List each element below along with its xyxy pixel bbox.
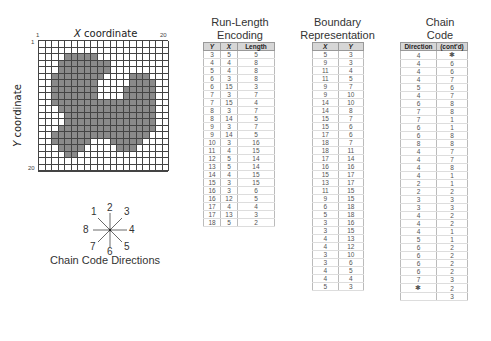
- table-cell: 7: [237, 123, 274, 131]
- table-cell: 4: [401, 76, 437, 84]
- table-cell: 11: [313, 187, 339, 195]
- table-row: 1636: [204, 187, 275, 195]
- table-row: 11415: [204, 147, 275, 155]
- table-cell: 9: [204, 131, 221, 139]
- table-cell: 11: [313, 67, 339, 75]
- table-row: 97: [313, 83, 364, 91]
- table-cell: 8: [401, 140, 437, 148]
- table-cell: 3: [220, 187, 237, 195]
- table-cell: 6: [338, 131, 364, 139]
- table-cell: 3: [220, 75, 237, 83]
- table-row: 73: [401, 276, 468, 284]
- table-cell: 8: [436, 132, 467, 140]
- table-cell: 14: [220, 115, 237, 123]
- table-cell: 12: [338, 243, 364, 251]
- col-length: Length: [237, 43, 274, 51]
- table-cell: 10: [338, 99, 364, 107]
- table-cell: 18: [204, 219, 221, 227]
- table-cell: 1: [436, 172, 467, 180]
- table-cell: 3: [237, 83, 274, 91]
- table-cell: 8: [338, 107, 364, 115]
- table-cell: 11: [313, 75, 339, 83]
- table-cell: 6: [401, 268, 437, 276]
- table-cell: 10: [338, 251, 364, 259]
- table-cell: 6: [204, 75, 221, 83]
- table-row: 115: [313, 75, 364, 83]
- table-cell: 3: [313, 227, 339, 235]
- table-cell: 3: [313, 259, 339, 267]
- col-y: Y: [338, 43, 364, 51]
- table-cell: 5: [237, 195, 274, 203]
- table-cell: 5: [237, 131, 274, 139]
- table-row: 47: [401, 156, 468, 164]
- table-cell: 8: [436, 108, 467, 116]
- table-cell: 7: [338, 115, 364, 123]
- table-cell: 10: [204, 139, 221, 147]
- table-cell: 6: [338, 123, 364, 131]
- table-cell: 3: [313, 251, 339, 259]
- table-row: 548: [204, 67, 275, 75]
- table-cell: 7: [237, 91, 274, 99]
- table-cell: 10: [338, 91, 364, 99]
- table-row: 618: [313, 203, 364, 211]
- table-cell: 14: [237, 155, 274, 163]
- direction-3: 3: [124, 206, 130, 217]
- y-axis-start: 1: [31, 39, 34, 45]
- table-cell: 11: [204, 147, 221, 155]
- table-cell: 15: [220, 83, 237, 91]
- table-cell: 15: [338, 227, 364, 235]
- table-cell: 3: [338, 283, 364, 291]
- chain-code-compass: 1 2 3 4 5 6 7 8: [80, 205, 140, 255]
- pixel-grid: [38, 40, 168, 170]
- table-row: 910: [313, 91, 364, 99]
- table-cell: 3: [220, 91, 237, 99]
- table-row: 15315: [204, 179, 275, 187]
- table-cell: 1: [436, 228, 467, 236]
- grid-cell: [163, 165, 170, 172]
- table-cell: 5: [401, 84, 437, 92]
- table-cell: 1: [436, 116, 467, 124]
- table-row: 10316: [204, 139, 275, 147]
- table-cell: 4: [401, 172, 437, 180]
- table-row: 355: [204, 51, 275, 59]
- table-row: 78: [401, 108, 468, 116]
- chain-code-table: Direction (cont'd) 4✱4646475647687871616…: [400, 42, 468, 301]
- table-cell: 4: [220, 67, 237, 75]
- table-cell: 3: [436, 196, 467, 204]
- table-cell: 5: [401, 236, 437, 244]
- table-row: 93: [313, 59, 364, 67]
- table-row: 17133: [204, 211, 275, 219]
- table-cell: 3: [401, 196, 437, 204]
- table-cell: 6: [436, 68, 467, 76]
- table-cell: 15: [237, 147, 274, 155]
- table-row: 837: [204, 107, 275, 115]
- table-cell: 6: [401, 100, 437, 108]
- table-cell: 15: [220, 99, 237, 107]
- table-row: 61: [401, 124, 468, 132]
- table-cell: 4: [401, 212, 437, 220]
- table-cell: 6: [401, 132, 437, 140]
- table-cell: 6: [338, 259, 364, 267]
- table-cell: 7: [338, 83, 364, 91]
- table-row: 33: [401, 196, 468, 204]
- table-row: 6153: [204, 83, 275, 91]
- table-row: ✱2: [401, 284, 468, 293]
- table-cell: 9: [313, 195, 339, 203]
- table-cell: 15: [237, 179, 274, 187]
- table-cell: 7: [436, 148, 467, 156]
- direction-7: 7: [90, 241, 96, 252]
- table-row: 42: [401, 220, 468, 228]
- table-cell: 8: [436, 100, 467, 108]
- table-cell: 4: [401, 156, 437, 164]
- table-row: 71: [401, 116, 468, 124]
- table-cell: 2: [237, 219, 274, 227]
- table-row: 12514: [204, 155, 275, 163]
- table-cell: 7: [436, 156, 467, 164]
- table-cell: 4: [401, 60, 437, 68]
- table-cell: 7: [204, 91, 221, 99]
- table-cell: 17: [338, 171, 364, 179]
- table-cell: 9: [313, 91, 339, 99]
- table-row: 3: [401, 293, 468, 301]
- table-cell: 4: [338, 275, 364, 283]
- table-cell: 4: [401, 51, 437, 60]
